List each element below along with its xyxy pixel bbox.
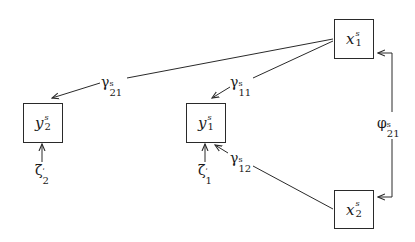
label-zeta1: ζʹ1 <box>198 163 212 185</box>
node-x1-sub: 1 <box>356 38 362 47</box>
label-phi21: φs21 <box>377 115 400 139</box>
zeta1-symbol: ζ <box>198 162 206 178</box>
gamma21-sub: 21 <box>109 88 122 97</box>
node-x2-symbol: x <box>346 201 354 219</box>
phi21-symbol: φ <box>377 115 387 131</box>
node-y1-sub: 1 <box>208 122 214 131</box>
phi21-sup: s <box>387 121 400 128</box>
gamma12-sub: 12 <box>238 164 251 173</box>
node-x2-sub: 2 <box>356 209 362 218</box>
node-y2-symbol: y <box>35 114 43 132</box>
node-x2-sup: s <box>356 200 362 207</box>
gamma11-symbol: γ <box>230 74 238 90</box>
gamma12-symbol: γ <box>230 150 238 166</box>
phi21-sub: 21 <box>387 129 400 138</box>
gamma11-sup: s <box>238 80 251 87</box>
zeta1-sup: ʹ <box>206 168 212 175</box>
node-y2: ys2 <box>23 103 63 143</box>
node-x1: xs1 <box>334 19 374 59</box>
edge-gamma21 <box>127 39 333 78</box>
zeta1-sub: 1 <box>206 176 212 185</box>
node-y1: ys1 <box>186 103 226 143</box>
label-gamma12: γs12 <box>230 151 251 173</box>
edge-gamma12 <box>253 166 333 209</box>
edge-gamma11-arrow <box>212 87 230 98</box>
gamma21-sup: s <box>109 80 122 87</box>
edge-gamma21-arrow <box>52 83 100 98</box>
label-zeta2: ζʹ2 <box>35 163 49 185</box>
label-gamma21: γs21 <box>101 75 122 97</box>
gamma12-sup: s <box>238 156 251 163</box>
node-y1-symbol: y <box>198 114 206 132</box>
node-x1-symbol: x <box>346 30 354 48</box>
gamma11-sub: 11 <box>238 88 251 97</box>
node-y1-sup: s <box>208 114 214 121</box>
node-y2-sup: s <box>45 114 51 121</box>
zeta2-symbol: ζ <box>35 162 43 178</box>
node-y2-sub: 2 <box>45 122 51 131</box>
edge-phi21-top <box>378 53 392 112</box>
node-x1-sup: s <box>356 30 362 37</box>
edge-gamma12-arrow <box>215 145 228 153</box>
edge-phi21-bottom <box>378 138 392 197</box>
label-gamma11: γs11 <box>230 75 251 97</box>
zeta2-sup: ʹ <box>43 168 49 175</box>
node-x2: xs2 <box>334 190 374 229</box>
gamma21-symbol: γ <box>101 74 109 90</box>
zeta2-sub: 2 <box>43 176 49 185</box>
